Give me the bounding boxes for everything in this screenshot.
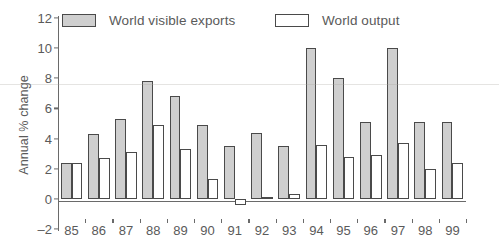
bar-91-series0 xyxy=(224,146,235,199)
bar-96-series0 xyxy=(360,122,371,199)
x-axis-tick-mark xyxy=(384,219,385,223)
x-axis-tick-mark xyxy=(112,219,113,223)
bar-92-series1 xyxy=(262,197,273,199)
x-axis-tick-label-87: 87 xyxy=(119,223,133,238)
x-axis-tick-mark xyxy=(140,219,141,223)
y-axis-tick-label: 2 xyxy=(45,161,52,176)
y-axis-title: Annual % change xyxy=(17,60,31,190)
y-axis-tick-mark xyxy=(54,228,58,229)
bar-99-series1 xyxy=(452,163,463,199)
y-axis-tick-label: 4 xyxy=(45,131,52,146)
bar-95-series0 xyxy=(333,78,344,199)
x-axis-tick-mark xyxy=(194,219,195,223)
x-axis-tick-label-97: 97 xyxy=(391,223,405,238)
bar-92-series0 xyxy=(251,133,262,199)
y-axis-tick-mark xyxy=(54,108,58,109)
bar-88-series0 xyxy=(142,81,153,199)
bar-86-series0 xyxy=(88,134,99,199)
y-axis-tick-label: 6 xyxy=(45,101,52,116)
x-axis-tick-label-86: 86 xyxy=(92,223,106,238)
x-axis-tick-label-93: 93 xyxy=(282,223,296,238)
x-axis-tick-label-89: 89 xyxy=(173,223,187,238)
x-axis-tick-label-85: 85 xyxy=(64,223,78,238)
y-axis-tick-label: 10 xyxy=(38,41,52,56)
y-axis-tick-mark xyxy=(54,78,58,79)
x-axis-tick-label-95: 95 xyxy=(336,223,350,238)
y-axis-tick-label: 0 xyxy=(45,191,52,206)
y-axis-tick-label: 12 xyxy=(38,11,52,26)
plot-area: 121086420–285868788899091929394959697989… xyxy=(58,18,466,229)
x-axis-tick-mark xyxy=(439,219,440,223)
bar-chart: World visible exports World output Annua… xyxy=(0,0,499,252)
x-axis-tick-mark xyxy=(58,219,59,223)
bar-96-series1 xyxy=(371,155,382,199)
x-axis-tick-label-94: 94 xyxy=(309,223,323,238)
x-axis-tick-mark xyxy=(466,219,467,223)
bar-87-series0 xyxy=(115,119,126,199)
bar-91-series1 xyxy=(235,199,246,205)
bar-89-series0 xyxy=(170,96,181,198)
bar-93-series0 xyxy=(278,146,289,199)
x-axis-tick-mark xyxy=(276,219,277,223)
y-axis-tick-mark xyxy=(54,17,58,18)
bar-85-series1 xyxy=(72,163,83,199)
bar-95-series1 xyxy=(344,157,355,199)
bar-94-series0 xyxy=(306,48,317,199)
x-axis-tick-mark xyxy=(303,219,304,223)
x-axis-tick-mark xyxy=(248,219,249,223)
bar-94-series1 xyxy=(316,145,327,199)
bar-98-series0 xyxy=(414,122,425,199)
bar-87-series1 xyxy=(126,152,137,199)
x-axis-tick-label-96: 96 xyxy=(364,223,378,238)
x-axis-tick-label-98: 98 xyxy=(418,223,432,238)
bar-89-series1 xyxy=(180,149,191,199)
bar-86-series1 xyxy=(99,158,110,199)
bar-99-series0 xyxy=(442,122,453,199)
y-axis-tick-mark xyxy=(54,138,58,139)
bar-88-series1 xyxy=(153,125,164,199)
x-axis-tick-mark xyxy=(221,219,222,223)
x-axis-tick-label-91: 91 xyxy=(228,223,242,238)
x-axis-tick-label-88: 88 xyxy=(146,223,160,238)
x-axis-tick-label-92: 92 xyxy=(255,223,269,238)
bar-93-series1 xyxy=(289,194,300,199)
y-axis-tick-label: –2 xyxy=(38,222,52,237)
y-axis-tick-mark xyxy=(54,168,58,169)
y-axis-tick-label: 8 xyxy=(45,71,52,86)
x-axis-tick-label-90: 90 xyxy=(200,223,214,238)
bar-90-series1 xyxy=(208,179,219,199)
y-axis-tick-mark xyxy=(54,198,58,199)
bar-97-series0 xyxy=(387,48,398,199)
bar-98-series1 xyxy=(425,169,436,199)
x-axis-tick-mark xyxy=(330,219,331,223)
bar-90-series0 xyxy=(197,125,208,199)
x-axis-tick-mark xyxy=(412,219,413,223)
x-axis-tick-mark xyxy=(357,219,358,223)
bar-85-series0 xyxy=(61,163,72,199)
x-axis-tick-mark xyxy=(85,219,86,223)
y-axis-tick-mark xyxy=(54,48,58,49)
x-axis-tick-mark xyxy=(167,219,168,223)
x-axis-tick-label-99: 99 xyxy=(445,223,459,238)
bar-97-series1 xyxy=(398,143,409,199)
